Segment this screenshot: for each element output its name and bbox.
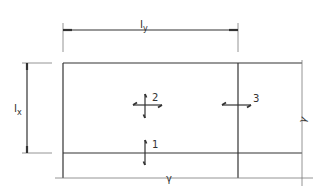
arrow-3-horizontal-icon: 3 [222,93,259,108]
lx-dimension: lx [14,63,52,153]
ly-label: ly [140,18,148,33]
bottom-edge-continuity-symbol: γ [166,173,172,184]
slab-panel-diagram: ly lx 2 3 1 γ γ [0,0,327,192]
slab-grid [55,60,313,186]
lx-label: lx [14,102,22,117]
arrow-2-cross-icon: 2 [133,92,162,118]
ly-dimension: ly [63,18,238,52]
arrow-1-label: 1 [152,139,158,150]
arrow-2-label: 2 [152,92,158,103]
arrow-3-label: 3 [253,93,259,104]
arrow-1-vertical-icon: 1 [144,139,159,165]
right-edge-continuity-symbol: γ [297,115,309,124]
